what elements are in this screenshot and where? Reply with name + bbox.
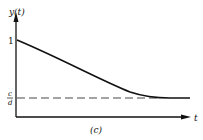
decay-chart: y(t) t 1 c d (c) bbox=[0, 0, 203, 140]
y-axis-label: y(t) bbox=[8, 7, 25, 17]
figure-caption: (c) bbox=[90, 125, 103, 135]
y-tick-one: 1 bbox=[8, 36, 14, 46]
x-axis-label: t bbox=[194, 113, 198, 123]
decay-curve bbox=[17, 40, 190, 98]
y-tick-d: d bbox=[8, 99, 13, 107]
x-axis-arrow-icon bbox=[181, 115, 191, 120]
y-tick-c: c bbox=[8, 90, 12, 98]
